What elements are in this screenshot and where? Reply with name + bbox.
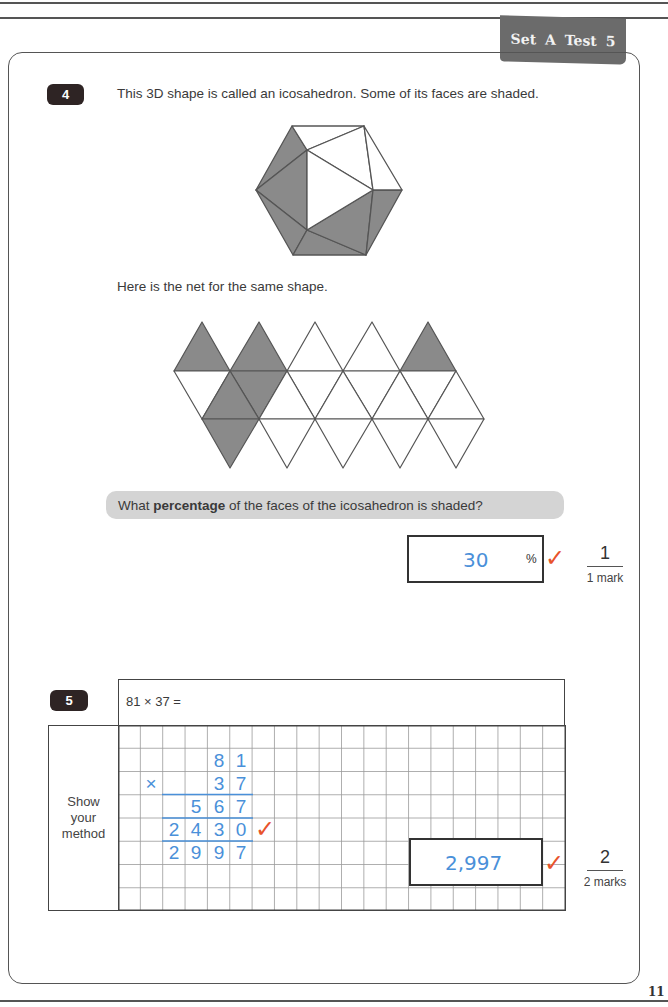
- marks-label: 2 marks: [578, 875, 632, 889]
- net-face: [230, 322, 287, 371]
- top-rule: [0, 2, 668, 4]
- working-digit: 3: [208, 772, 230, 795]
- net-face: [343, 322, 400, 371]
- net-intro: Here is the net for the same shape.: [117, 279, 328, 294]
- working-digit: 2: [163, 841, 185, 864]
- question-5-number: 5: [65, 693, 72, 708]
- footer-rule: [0, 1000, 668, 1002]
- prompt-text: What: [118, 498, 153, 513]
- question-4-marks: 1 1 mark: [578, 543, 632, 585]
- working-digit: 9: [208, 841, 230, 864]
- question-4-prompt: What percentage of the faces of the icos…: [106, 491, 564, 519]
- working-digit: 7: [230, 841, 252, 864]
- net-face: [202, 419, 259, 468]
- working-digit: 7: [230, 795, 252, 818]
- icosahedron-net: [170, 318, 490, 474]
- working-digit: 4: [185, 818, 207, 841]
- working-digit: 3: [208, 818, 230, 841]
- method-label-line: Show: [62, 794, 105, 810]
- method-label-line: method: [62, 826, 105, 842]
- marks-awarded: 1: [587, 543, 623, 567]
- question-4-answer-value: 30: [463, 548, 488, 572]
- question-5-problem-box: 81 × 37 =: [118, 679, 565, 725]
- working-digit: 7: [230, 772, 252, 795]
- net-face: [315, 419, 372, 468]
- working-digit: 1: [230, 749, 252, 772]
- question-4-intro: This 3D shape is called an icosahedron. …: [117, 86, 539, 101]
- working-digit: 9: [185, 841, 207, 864]
- show-method-label: Show your method: [48, 725, 118, 911]
- question-4-badge: 4: [47, 84, 84, 105]
- prompt-bold: percentage: [153, 498, 225, 513]
- working-digit: 5: [185, 795, 207, 818]
- net-face: [259, 419, 315, 468]
- marks-label: 1 mark: [578, 571, 632, 585]
- question-5-tick-icon: ✓: [544, 851, 564, 875]
- shaded-face: [366, 190, 402, 255]
- marks-awarded: 2: [587, 847, 623, 871]
- set-test-label: Set A Test 5: [511, 31, 616, 50]
- question-4-answer-box[interactable]: 30 %: [407, 535, 544, 583]
- working-digit: 8: [208, 749, 230, 772]
- page-number: 11: [648, 985, 665, 999]
- prompt-text: of the faces of the icosahedron is shade…: [225, 498, 482, 513]
- working-tick-icon: ✓: [255, 817, 275, 841]
- working-digit: 0: [230, 818, 252, 841]
- net-face: [372, 419, 428, 468]
- net-face: [174, 322, 230, 371]
- net-face: [400, 322, 456, 371]
- question-5-marks: 2 2 marks: [578, 847, 632, 889]
- icosahedron-figure: [250, 120, 410, 262]
- percent-sign: %: [526, 552, 537, 566]
- working-digit: 6: [208, 795, 230, 818]
- question-4-number: 4: [62, 87, 69, 102]
- question-5-badge: 5: [50, 690, 88, 711]
- method-label-line: your: [62, 810, 105, 826]
- question-5-problem: 81 × 37 =: [126, 694, 181, 709]
- question-5-answer-value: 2,997: [445, 851, 502, 875]
- multiply-sign: ×: [140, 772, 162, 795]
- question-4-tick-icon: ✓: [545, 546, 565, 570]
- net-face: [428, 419, 484, 468]
- working-digit: 2: [163, 818, 185, 841]
- net-face: [287, 322, 343, 371]
- question-5-answer-box[interactable]: 2,997: [409, 838, 543, 886]
